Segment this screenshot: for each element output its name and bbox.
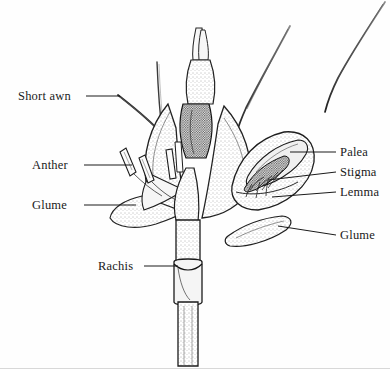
label-palea: Palea bbox=[340, 146, 368, 159]
label-glume-right: Glume bbox=[340, 229, 375, 242]
label-short-awn: Short awn bbox=[18, 90, 71, 103]
rachis-group bbox=[174, 220, 202, 366]
botanical-figure: Short awn Anther Glume Rachis Palea Stig… bbox=[0, 0, 390, 369]
leader-glume-right bbox=[278, 226, 336, 235]
label-rachis: Rachis bbox=[98, 260, 133, 273]
label-lemma: Lemma bbox=[340, 186, 379, 199]
central-floret bbox=[180, 28, 215, 158]
label-glume-left: Glume bbox=[32, 199, 67, 212]
spikelet-drawing bbox=[0, 0, 390, 369]
label-stigma: Stigma bbox=[340, 166, 377, 179]
label-anther: Anther bbox=[32, 159, 68, 172]
